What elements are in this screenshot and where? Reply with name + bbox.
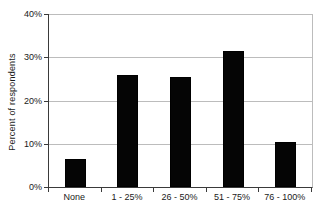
x-tick-label: 51 - 75% [202, 192, 262, 203]
gridline [49, 57, 312, 58]
bar-26-50 [170, 77, 191, 187]
x-tick-label: 26 - 50% [150, 192, 210, 203]
bar-51-75 [223, 51, 244, 187]
y-axis-tick [44, 57, 48, 58]
y-axis-tick [44, 144, 48, 145]
x-tick-label: 76 - 100% [255, 192, 315, 203]
bar-76-100 [275, 142, 296, 187]
plot-area [48, 14, 313, 188]
bar-chart: Percent of respondents 0%10%20%30%40%Non… [0, 0, 328, 214]
bar-1-25 [117, 75, 138, 187]
y-axis-tick [44, 14, 48, 15]
x-tick-label: 1 - 25% [97, 192, 157, 203]
y-tick-label: 10% [2, 139, 42, 149]
y-tick-label: 40% [2, 9, 42, 19]
y-tick-label: 20% [2, 96, 42, 106]
gridline [49, 14, 312, 15]
y-tick-label: 30% [2, 52, 42, 62]
y-axis-tick [44, 101, 48, 102]
bar-none [65, 159, 86, 187]
y-tick-label: 0% [2, 182, 42, 192]
x-tick-label: None [44, 192, 104, 203]
